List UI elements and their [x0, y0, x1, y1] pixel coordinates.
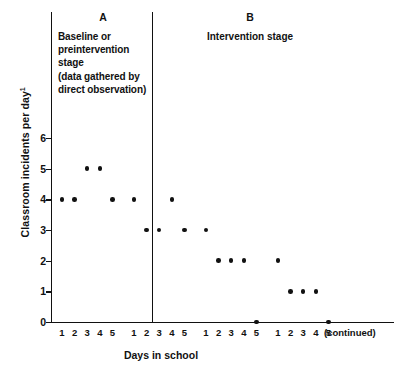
y-axis-line — [51, 12, 52, 323]
stage-a-description: Baseline orpreinterventionstage(data gat… — [58, 30, 154, 96]
y-tick-mark — [46, 138, 51, 139]
data-point — [301, 289, 306, 294]
stage-a-description-line: direct observation) — [58, 83, 154, 96]
x-tick-label: 3 — [154, 327, 164, 338]
stage-b-description: Intervention stage — [160, 30, 340, 43]
y-tick-label: 1 — [30, 286, 46, 296]
y-tick-mark — [46, 261, 51, 262]
x-tick-label: 1 — [57, 327, 67, 338]
x-tick-label: 4 — [167, 327, 177, 338]
stage-a-description-line: stage — [58, 56, 154, 69]
data-point — [326, 320, 331, 325]
x-tick-label: 5 — [179, 327, 189, 338]
y-tick-mark — [46, 291, 51, 292]
data-point — [288, 289, 293, 294]
data-point — [204, 228, 209, 233]
y-axis-title-superscript: 1 — [19, 87, 26, 91]
x-tick-label: 1 — [273, 327, 283, 338]
data-point — [157, 228, 162, 233]
y-tick-label: 0 — [30, 317, 46, 327]
x-tick-label: 2 — [70, 327, 80, 338]
y-tick-label: 5 — [30, 164, 46, 174]
stage-a-description-line: (data gathered by — [58, 70, 154, 83]
data-point — [170, 197, 175, 202]
y-tick-label: 6 — [30, 133, 46, 143]
x-tick-label: 5 — [107, 327, 117, 338]
x-tick-label: 3 — [298, 327, 308, 338]
data-point — [182, 228, 187, 233]
x-tick-label: 3 — [226, 327, 236, 338]
stage-b-description-line: Intervention stage — [160, 30, 340, 43]
x-tick-label: 4 — [239, 327, 249, 338]
y-tick-label: 2 — [30, 256, 46, 266]
y-tick-label: 3 — [30, 225, 46, 235]
data-point — [229, 258, 234, 263]
data-point — [60, 197, 65, 202]
x-tick-label: 4 — [95, 327, 105, 338]
stage-b-letter: B — [160, 11, 340, 23]
y-tick-label: 4 — [30, 194, 46, 204]
data-point — [242, 258, 247, 263]
data-point — [314, 289, 319, 294]
stage-a-letter: A — [58, 11, 148, 23]
x-tick-label: 1 — [129, 327, 139, 338]
x-axis-title: Days in school — [51, 349, 271, 361]
y-tick-mark — [46, 199, 51, 200]
data-point — [85, 166, 90, 171]
data-point — [132, 197, 137, 202]
scatter-chart-figure: Classroom incidents per day1 0123456 A B… — [0, 0, 397, 368]
y-tick-group: 0123456 — [26, 0, 46, 368]
data-point — [276, 258, 281, 263]
x-tick-label: 4 — [311, 327, 321, 338]
stage-a-description-line: Baseline or — [58, 30, 154, 43]
x-axis-line — [51, 322, 394, 323]
y-tick-mark — [46, 169, 51, 170]
x-axis-continued-label: (continued) — [324, 327, 376, 338]
x-tick-label: 1 — [201, 327, 211, 338]
x-tick-label: 2 — [286, 327, 296, 338]
x-tick-label: 3 — [82, 327, 92, 338]
data-point — [110, 197, 115, 202]
data-point — [254, 320, 259, 325]
x-tick-label: 5 — [251, 327, 261, 338]
y-tick-mark — [46, 322, 51, 323]
data-point — [72, 197, 77, 202]
x-tick-label: 2 — [214, 327, 224, 338]
data-point — [144, 228, 149, 233]
x-tick-label: 2 — [142, 327, 152, 338]
y-tick-mark — [46, 230, 51, 231]
stage-a-description-line: preintervention — [58, 43, 154, 56]
data-point — [98, 166, 103, 171]
data-point — [216, 258, 221, 263]
